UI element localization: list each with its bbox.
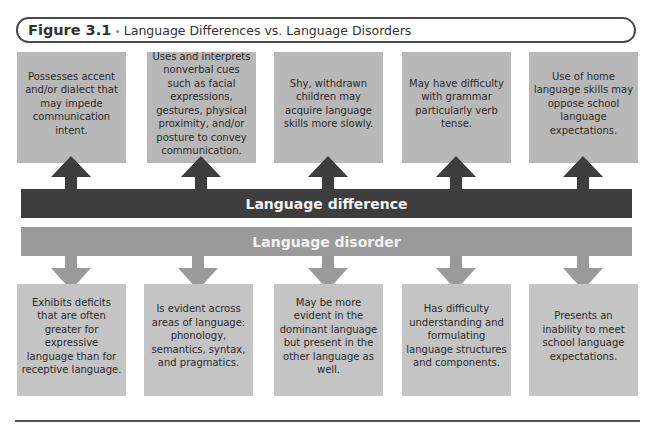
disorder-text-5: Presents an inability to meet school lan… (533, 309, 634, 363)
disorder-box-2: Is evident across areas of language: pho… (144, 284, 253, 396)
bullet-separator: • (114, 25, 121, 38)
up-arrow-icon (181, 156, 221, 190)
difference-text-4: May have difficulty with grammar particu… (406, 77, 507, 131)
disorder-text-3: May be more evident in the dominant lang… (278, 296, 379, 377)
figure-title: Figure 3.1•Language Differences vs. Lang… (28, 22, 411, 38)
disorder-text-1: Exhibits deficits that are often greater… (21, 296, 122, 377)
language-difference-label: Language difference (246, 196, 408, 212)
up-arrow-icon (563, 156, 603, 190)
language-disorder-bar: Language disorder (21, 227, 632, 256)
difference-box-3: Shy, withdrawn children may acquire lang… (274, 52, 383, 163)
language-difference-bar: Language difference (21, 189, 632, 218)
figure-caption: Language Differences vs. Language Disord… (124, 23, 412, 38)
difference-text-5: Use of home language skills may oppose s… (533, 70, 634, 138)
up-arrow-icon (436, 156, 476, 190)
disorder-box-5: Presents an inability to meet school lan… (529, 284, 638, 396)
disorder-text-2: Is evident across areas of language: pho… (148, 302, 249, 370)
difference-box-4: May have difficulty with grammar particu… (402, 52, 511, 163)
disorder-box-3: May be more evident in the dominant lang… (274, 284, 383, 396)
up-arrow-icon (308, 156, 348, 190)
difference-text-2: Uses and interprets nonverbal cues such … (151, 50, 252, 158)
difference-text-1: Possesses accent and/or dialect that may… (21, 70, 122, 138)
figure-label: Figure 3.1 (28, 22, 111, 38)
bottom-divider (15, 420, 640, 422)
difference-text-3: Shy, withdrawn children may acquire lang… (278, 77, 379, 131)
difference-box-1: Possesses accent and/or dialect that may… (17, 52, 126, 163)
disorder-text-4: Has difficulty understanding and formula… (406, 302, 507, 370)
difference-box-5: Use of home language skills may oppose s… (529, 52, 638, 163)
disorder-box-4: Has difficulty understanding and formula… (402, 284, 511, 396)
disorder-box-1: Exhibits deficits that are often greater… (17, 284, 126, 396)
up-arrow-icon (51, 156, 91, 190)
difference-box-2: Uses and interprets nonverbal cues such … (147, 52, 256, 163)
language-disorder-label: Language disorder (252, 234, 400, 250)
